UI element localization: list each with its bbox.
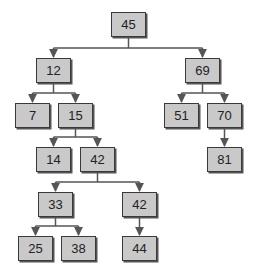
- tree-node-38: 38: [61, 236, 96, 261]
- tree-node-51: 51: [164, 103, 199, 128]
- tree-node-7: 7: [15, 103, 50, 128]
- tree-node-14: 14: [36, 147, 71, 172]
- tree-node-33: 33: [38, 192, 73, 217]
- tree-node-70: 70: [207, 103, 242, 128]
- tree-node-44: 44: [122, 236, 157, 261]
- tree-node-42: 42: [122, 192, 157, 217]
- tree-node-45: 45: [111, 12, 146, 37]
- tree-node-15: 15: [58, 103, 93, 128]
- tree-node-81: 81: [207, 147, 242, 172]
- tree-node-69: 69: [185, 58, 220, 83]
- tree-node-42: 42: [80, 147, 115, 172]
- tree-node-12: 12: [36, 58, 71, 83]
- tree-edges: [0, 0, 257, 274]
- tree-node-25: 25: [18, 236, 53, 261]
